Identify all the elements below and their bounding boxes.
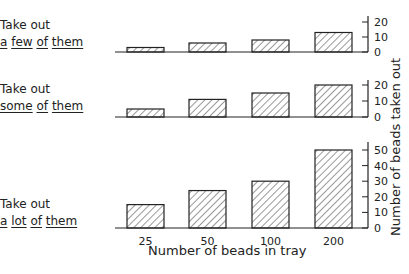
bar <box>252 181 289 228</box>
y-tick-label: 10 <box>374 206 388 219</box>
bar <box>315 33 352 53</box>
y-tick-label: 0 <box>374 222 381 235</box>
bar <box>315 150 352 228</box>
bar <box>189 191 226 228</box>
chart-panel: 01020304050 <box>115 142 388 235</box>
y-tick-label: 40 <box>374 160 388 173</box>
bar <box>252 40 289 52</box>
y-axis-label: Number of beads taken out <box>388 58 403 236</box>
chart-panel: 01020 <box>115 79 388 124</box>
bar <box>189 99 226 117</box>
bar <box>315 85 352 117</box>
bar-chart: 0102001020010203040502550100200 <box>0 0 409 274</box>
y-tick-label: 0 <box>374 46 381 59</box>
y-tick-label: 0 <box>374 111 381 124</box>
x-axis-label: Number of beads in tray <box>148 243 306 258</box>
y-tick-label: 50 <box>374 144 388 157</box>
bar <box>127 48 164 53</box>
y-tick-label: 20 <box>374 191 388 204</box>
y-tick-label: 20 <box>374 16 388 29</box>
bar <box>252 93 289 117</box>
bar <box>189 43 226 52</box>
y-tick-label: 10 <box>374 31 388 44</box>
bar <box>127 205 164 228</box>
y-tick-label: 20 <box>374 79 388 92</box>
x-tick-label: 200 <box>323 235 344 248</box>
y-tick-label: 10 <box>374 95 388 108</box>
y-tick-label: 30 <box>374 175 388 188</box>
chart-panel: 01020 <box>115 16 388 59</box>
bar <box>127 109 164 117</box>
